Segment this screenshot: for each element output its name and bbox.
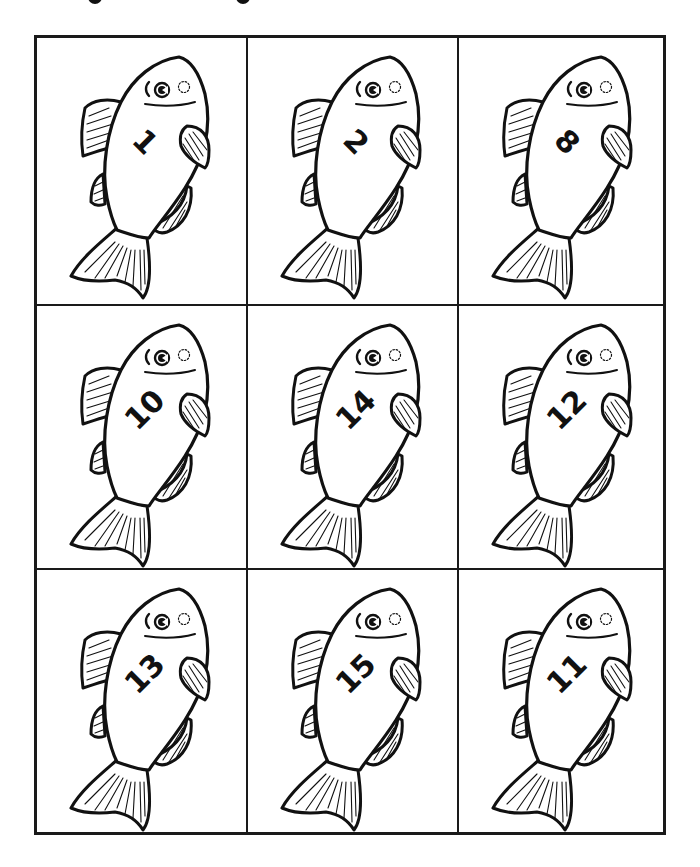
fish-icon: 15 — [248, 570, 458, 832]
fish-icon: 1 — [37, 38, 247, 302]
fish-icon: 8 — [459, 38, 663, 302]
grid-cell-1: 1 — [37, 38, 248, 306]
fish-icon: 13 — [37, 570, 247, 832]
grid-cell-7: 13 — [37, 570, 248, 832]
grid-cell-5: 14 — [248, 306, 459, 570]
fish-icon: 2 — [248, 38, 458, 302]
fish-icon: 14 — [248, 306, 458, 570]
fish-icon: 11 — [459, 570, 663, 832]
fish-icon: 12 — [459, 306, 663, 570]
grid-cell-3: 8 — [459, 38, 663, 306]
grid-cell-9: 11 — [459, 570, 663, 832]
grid-cell-4: 10 — [37, 306, 248, 570]
grid-cell-8: 15 — [248, 570, 459, 832]
fish-number-grid: 1 2 8 10 14 12 13 — [34, 35, 666, 835]
fish-icon: 10 — [37, 306, 247, 570]
grid-cell-2: 2 — [248, 38, 459, 306]
cropped-title-fragment — [0, 0, 700, 10]
grid-cell-6: 12 — [459, 306, 663, 570]
